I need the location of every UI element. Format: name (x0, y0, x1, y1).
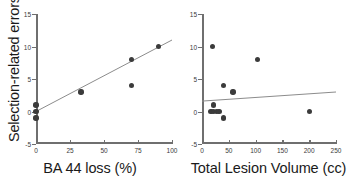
x-tick-label-left: 0 (34, 147, 38, 154)
y-tick-label-left: 10 (24, 43, 31, 50)
y-tick-right (198, 144, 202, 145)
y-tick-right (198, 47, 202, 48)
x-tick-label-left: 100 (167, 147, 178, 154)
data-point (33, 109, 38, 114)
chart-panel-ba44: Selection-related errors -50510150255075… (0, 0, 180, 188)
x-tick-label-right: 150 (277, 147, 288, 154)
x-tick-label-right: 50 (225, 147, 232, 154)
x-tick-label-right: 0 (200, 147, 204, 154)
x-tick-label-right: 100 (250, 147, 261, 154)
x-tick-label-left: 50 (100, 147, 107, 154)
data-point (33, 115, 38, 120)
data-point (307, 109, 312, 114)
y-tick-label-left: 0 (27, 108, 31, 115)
data-point (78, 89, 83, 94)
x-tick-label-right: 250 (331, 147, 342, 154)
x-tick-label-left: 75 (134, 147, 141, 154)
x-tick-left (172, 140, 173, 144)
y-tick-right (198, 14, 202, 15)
y-tick-label-left: -5 (25, 141, 31, 148)
plot-area-left: -50510150255075100 (36, 14, 172, 144)
x-tick-right (336, 140, 337, 144)
x-axis-title-right: Total Lesion Volume (cc) (180, 160, 357, 176)
data-point (129, 83, 134, 88)
x-axis-title-left: BA 44 loss (%) (0, 160, 180, 176)
plot-area-right: -5051015050100150200250 (202, 14, 336, 144)
x-tick-left (70, 140, 71, 144)
trendline-right (202, 14, 336, 144)
x-tick-right (256, 140, 257, 144)
x-tick-right (229, 140, 230, 144)
chart-panel-lesion-volume: -5051015050100150200250 Total Lesion Vol… (180, 0, 357, 188)
data-point (230, 89, 235, 94)
x-tick-label-right: 200 (304, 147, 315, 154)
data-point (216, 109, 221, 114)
x-tick-right (202, 140, 203, 144)
y-tick-left (32, 47, 36, 48)
data-point (33, 102, 38, 107)
figure-container: Selection-related errors -50510150255075… (0, 0, 357, 188)
y-tick-label-left: 5 (27, 76, 31, 83)
y-tick-label-right: 15 (190, 11, 197, 18)
x-tick-left (138, 140, 139, 144)
x-tick-right (282, 140, 283, 144)
y-tick-left (32, 79, 36, 80)
x-tick-left (104, 140, 105, 144)
y-tick-label-right: 10 (190, 43, 197, 50)
y-tick-label-left: 15 (24, 11, 31, 18)
y-tick-label-right: 0 (193, 108, 197, 115)
x-tick-left (36, 140, 37, 144)
trendline-left (36, 14, 172, 144)
y-tick-right (198, 79, 202, 80)
data-point (255, 57, 260, 62)
x-tick-right (309, 140, 310, 144)
data-point (129, 57, 134, 62)
y-tick-left (32, 144, 36, 145)
y-tick-label-right: -5 (191, 141, 197, 148)
x-tick-label-left: 25 (66, 147, 73, 154)
y-tick-label-right: 5 (193, 76, 197, 83)
y-tick-right (198, 112, 202, 113)
data-point (221, 115, 226, 120)
y-tick-left (32, 14, 36, 15)
y-axis-title-left: Selection-related errors (6, 2, 22, 142)
